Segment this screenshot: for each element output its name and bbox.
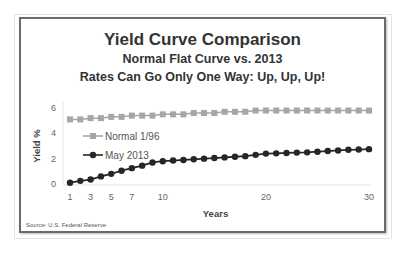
data-point-square [314, 108, 320, 114]
data-point-circle [160, 158, 166, 164]
x-axis-title: Years [203, 208, 228, 219]
data-point-circle [304, 149, 310, 155]
y-tick-label: 2 [51, 154, 56, 164]
series-group [67, 108, 372, 186]
data-point-square [180, 111, 186, 117]
data-point-square [119, 114, 125, 120]
data-point-circle [263, 150, 269, 156]
data-point-circle [98, 173, 104, 179]
data-point-circle [139, 162, 145, 168]
data-point-square [366, 108, 372, 114]
data-point-circle [191, 156, 197, 162]
data-point-circle [170, 157, 176, 163]
data-point-circle [77, 178, 83, 184]
data-point-square [253, 108, 259, 114]
data-point-square [98, 115, 104, 121]
data-point-square [108, 114, 114, 120]
x-tick-label: 5 [109, 192, 114, 202]
data-point-circle [180, 157, 186, 163]
data-point-circle [335, 147, 341, 153]
data-point-square [284, 108, 290, 114]
data-point-square [201, 110, 207, 116]
data-point-circle [232, 154, 238, 160]
data-point-square [77, 116, 83, 122]
legend-circle-icon [90, 152, 96, 158]
data-point-square [263, 108, 269, 114]
data-point-square [325, 108, 331, 114]
data-point-circle [355, 146, 361, 152]
x-tick-label: 10 [158, 192, 168, 202]
data-point-circle [211, 155, 217, 161]
data-point-square [356, 108, 362, 114]
data-point-circle [67, 180, 73, 186]
data-point-circle [149, 159, 155, 165]
y-tick-label: 4 [51, 128, 56, 138]
data-point-circle [108, 171, 114, 177]
data-point-square [294, 108, 300, 114]
data-point-circle [252, 152, 258, 158]
x-tick-label: 30 [364, 192, 374, 202]
legend: Normal 1/96May 2013 [83, 131, 160, 161]
data-point-circle [87, 176, 93, 182]
data-point-circle [129, 165, 135, 171]
y-axis-title: Yield % [31, 129, 42, 163]
data-point-square [160, 111, 166, 117]
data-point-circle [345, 147, 351, 153]
data-point-square [129, 113, 135, 119]
data-point-square [191, 110, 197, 116]
data-point-square [67, 116, 73, 122]
data-point-square [242, 109, 248, 115]
data-point-square [88, 115, 94, 121]
y-tick-label: 0 [51, 179, 56, 189]
data-point-square [139, 113, 145, 119]
data-point-square [149, 113, 155, 119]
legend-label: Normal 1/96 [105, 131, 160, 142]
x-tick-label: 1 [67, 192, 72, 202]
data-point-circle [242, 153, 248, 159]
data-point-circle [273, 150, 279, 156]
series-line [70, 111, 369, 120]
data-point-square [222, 109, 228, 115]
y-tick-label: 6 [51, 103, 56, 113]
x-tick-label: 3 [88, 192, 93, 202]
x-tick-label: 7 [129, 192, 134, 202]
data-point-circle [366, 146, 372, 152]
data-point-circle [325, 148, 331, 154]
source-note: Source: U.S. Federal Reserve [26, 222, 106, 228]
data-point-square [170, 111, 176, 117]
x-tick-label: 20 [261, 192, 271, 202]
data-point-square [335, 108, 341, 114]
data-point-circle [283, 150, 289, 156]
legend-label: May 2013 [105, 150, 149, 161]
data-point-square [273, 108, 279, 114]
data-point-circle [221, 154, 227, 160]
legend-square-icon [90, 133, 96, 139]
data-point-square [345, 108, 351, 114]
plot-area: 02461357102030YearsYield % Normal 1/96Ma… [0, 0, 405, 253]
data-point-circle [294, 149, 300, 155]
data-point-circle [118, 168, 124, 174]
data-point-circle [314, 149, 320, 155]
data-point-square [211, 110, 217, 116]
data-point-square [232, 109, 238, 115]
data-point-circle [201, 155, 207, 161]
data-point-square [304, 108, 310, 114]
